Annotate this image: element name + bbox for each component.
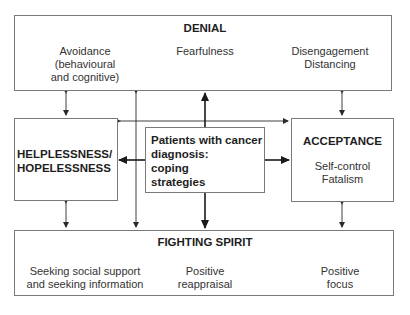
denial-item-fearfulness: Fearfulness — [160, 45, 250, 58]
acceptance-title: ACCEPTANCE — [291, 135, 394, 147]
center-title: Patients with cancer diagnosis: coping s… — [151, 133, 262, 189]
acceptance-item: Self-control Fatalism — [291, 160, 394, 186]
denial-title: DENIAL — [155, 22, 255, 34]
helplessness-title: HELPLESSNESS/ HOPELESSNESS — [17, 147, 112, 175]
denial-item-disengagement: Disengagement Distancing — [280, 45, 380, 71]
denial-item-avoidance: Avoidance (behavioural and cognitive) — [30, 45, 140, 84]
fighting-item-positive-focus: Positive focus — [300, 265, 380, 291]
fighting-item-positive-reappraisal: Positive reappraisal — [165, 265, 245, 291]
fighting-spirit-title: FIGHTING SPIRIT — [145, 236, 265, 248]
fighting-item-seeking-support: Seeking social support and seeking infor… — [18, 265, 152, 291]
